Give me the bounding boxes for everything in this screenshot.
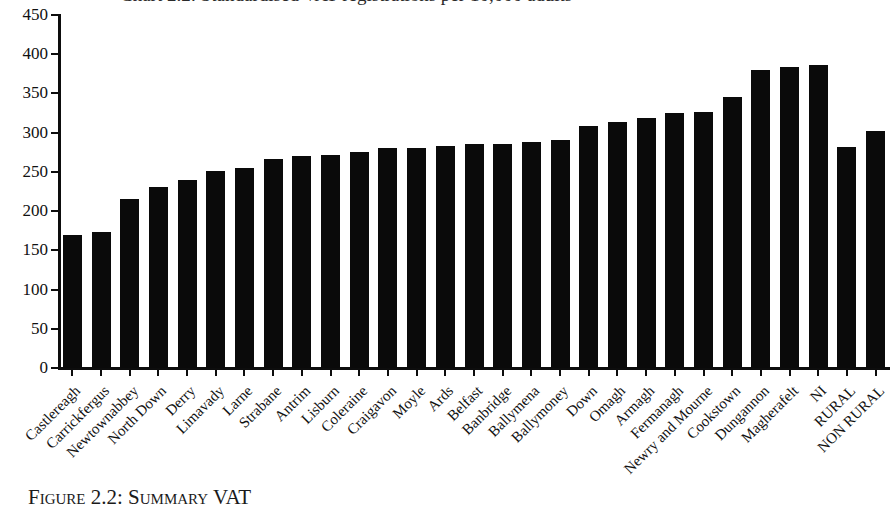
x-axis-label-text: Limavady [173,383,227,437]
x-axis-label-text: Omagh [587,383,629,425]
x-axis-tick [272,369,274,376]
x-axis-tick [502,369,504,376]
x-axis-label-text: Banbridge [459,383,514,438]
x-axis-label-text: Lisburn [298,383,342,427]
figure-caption: Figure 2.2: Summary VAT [28,486,868,509]
x-axis-tick [559,369,561,376]
x-axis-label-text: Carrickfergus [44,383,113,452]
y-axis-tick-label: 300 [2,124,48,141]
x-axis-tick [129,369,131,376]
bar [465,144,484,368]
x-axis-label-text: Moyle [390,383,428,421]
bar [321,155,340,368]
x-axis-tick [387,369,389,376]
bar [350,152,369,369]
y-axis-tick-label: 200 [2,202,48,219]
x-axis-label-text: Magherafelt [738,383,800,445]
x-axis-label-text: Newry and Mourne [621,383,715,477]
bar-series [58,15,890,368]
bar [809,65,828,368]
bar [608,122,627,368]
bar [264,159,283,368]
x-axis-label-text: Belfast [445,383,486,424]
x-axis-label-text: Strabane [237,383,285,431]
x-axis-tick [760,369,762,376]
y-axis-tick-label: 400 [2,45,48,62]
x-axis-label-text: Antrim [272,383,313,424]
bar [723,97,742,368]
x-axis-tick [530,369,532,376]
bar [665,113,684,368]
chart-title-text: Chart 2.2: Standardised VAT registration… [120,0,572,6]
y-axis-tick-label: 450 [2,6,48,23]
bar [378,148,397,368]
x-axis-label-text: Dungannon [712,383,772,443]
x-axis-tick [186,369,188,376]
bar [751,70,770,368]
y-axis-tick-label: 0 [2,359,48,376]
bar [551,140,570,368]
bar [407,148,426,368]
bar [579,126,598,368]
x-axis-label-text: RURAL [812,383,859,430]
x-axis-label-text: Larne [220,383,255,418]
y-axis-tick-label: 50 [2,320,48,337]
y-axis-tick-label: 150 [2,241,48,258]
x-axis-label-text: Castlereagh [23,383,84,444]
bar [235,168,254,368]
x-axis-label-text: Down [564,383,601,420]
x-axis-tick [703,369,705,376]
bar [292,156,311,368]
x-axis-label-text: Armagh [612,383,657,428]
bar [522,142,541,368]
bar [493,144,512,368]
bar [178,180,197,368]
x-axis-label-text: Coleraine [319,383,371,435]
bar [694,112,713,369]
y-axis-tick-label: 350 [2,84,48,101]
bar [436,146,455,368]
bar [837,147,856,368]
bar [63,235,82,368]
x-axis-tick [473,369,475,376]
x-axis-label-text: Ballymoney [509,383,571,445]
chart-figure: Chart 2.2: Standardised VAT registration… [0,0,895,509]
x-axis-label-text: Craigavon [344,383,399,438]
x-axis-tick [789,369,791,376]
bar [637,118,656,368]
x-axis-tick [71,369,73,376]
x-axis-tick [157,369,159,376]
x-axis-tick [358,369,360,376]
x-axis-label-text: Ballymena [486,383,543,440]
bar [206,171,225,368]
figure-caption-text: Figure 2.2: Summary VAT [28,486,868,509]
x-axis-label-text: Fermanagh [628,383,686,441]
x-axis-tick [215,369,217,376]
x-axis-label-text: NON RURAL [815,383,887,455]
x-axis-tick [588,369,590,376]
bar [866,131,885,368]
x-axis-tick [846,369,848,376]
bar [780,67,799,368]
bar [92,232,111,368]
x-axis-tick [817,369,819,376]
chart-title-cropped: Chart 2.2: Standardised VAT registration… [0,0,895,7]
x-axis-label-text: Cookstown [685,383,744,442]
x-axis-tick [301,369,303,376]
x-axis-label-text: Newtownabbey [64,383,141,460]
x-axis-tick [645,369,647,376]
y-axis-tick-label: 100 [2,281,48,298]
x-axis-tick [100,369,102,376]
x-axis-tick [731,369,733,376]
y-axis-tick-label: 250 [2,163,48,180]
x-axis-tick [444,369,446,376]
x-axis-label-text: North Down [106,383,170,447]
bar [120,199,139,368]
x-axis-label-text: Ards [425,383,456,414]
x-axis-label-text: NI [808,383,830,405]
x-axis-tick [330,369,332,376]
x-axis-tick [616,369,618,376]
x-axis-tick [243,369,245,376]
x-axis-tick [674,369,676,376]
x-axis-tick [875,369,877,376]
